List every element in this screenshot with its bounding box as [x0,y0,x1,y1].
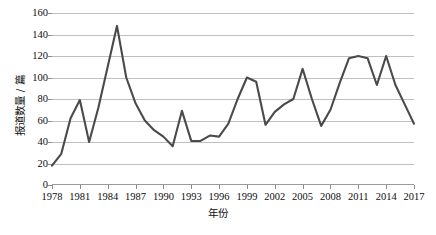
x-tick-label: 2005 [292,191,313,203]
x-tick-label: 1981 [69,191,90,203]
y-tick-label: 60 [6,116,48,126]
x-tick-label: 1999 [236,191,257,203]
x-tick-label: 1987 [125,191,146,203]
x-tick-label: 2014 [376,191,397,203]
x-axis-tickmark [275,185,276,189]
x-tick-label: 1990 [153,191,174,203]
y-tick-label: 20 [6,159,48,169]
x-tick-label: 1996 [209,191,230,203]
x-axis-tickmark [330,185,331,189]
x-tick-label: 2002 [264,191,285,203]
x-axis-tickmark [386,185,387,189]
x-axis-tickmark [80,185,81,189]
y-tick-label: 100 [6,73,48,83]
y-tick-label: 160 [6,8,48,18]
x-axis-line [52,184,414,185]
x-tick-label: 1984 [97,191,118,203]
line-chart: 报道数量 / 篇 160 140 120 100 80 60 40 20 0 [0,0,436,235]
x-axis-tickmark [163,185,164,189]
x-axis-tickmark [108,185,109,189]
x-axis-tickmark [136,185,137,189]
x-axis-tickmark [52,185,53,189]
y-tick-label: 120 [6,51,48,61]
x-axis-tickmark [191,185,192,189]
x-tick-label: 1978 [42,191,63,203]
x-tick-label: 2008 [320,191,341,203]
x-tick-label: 2011 [348,191,369,203]
x-axis-tickmark [219,185,220,189]
y-tick-label: 40 [6,137,48,147]
x-axis-tickmark [303,185,304,189]
plot-area [52,13,414,185]
x-tick-label: 1993 [181,191,202,203]
series-polyline [52,26,414,166]
series-line-chart [52,13,414,185]
x-axis-title: 年份 [0,205,436,220]
x-tick-label: 2017 [404,191,425,203]
x-axis-tick-labels: 1978198119841987199019931996199920022005… [0,191,436,205]
y-tick-label: 80 [6,94,48,104]
x-axis-tickmark [247,185,248,189]
y-tick-label: 140 [6,30,48,40]
x-axis-tickmark [358,185,359,189]
x-axis-tickmark [414,185,415,189]
y-tick-label: 0 [6,180,48,190]
